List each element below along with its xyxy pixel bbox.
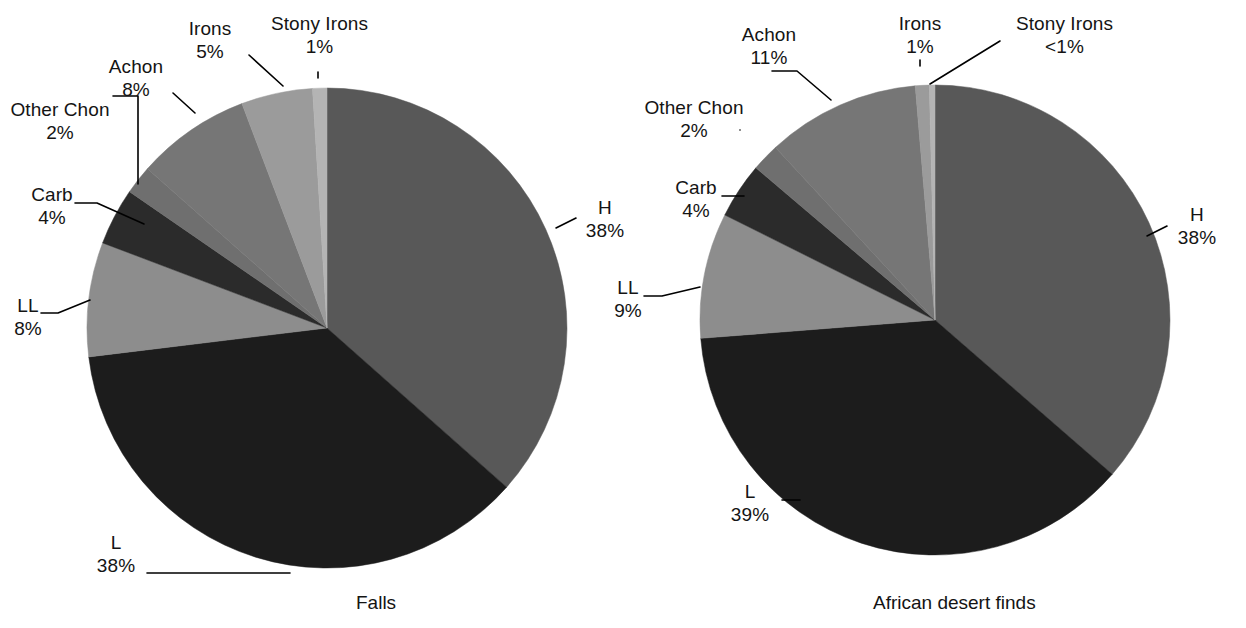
left-chart-caption: Falls bbox=[356, 592, 396, 614]
leader-line-left-h bbox=[556, 218, 576, 228]
left-label-irons: Irons 5% bbox=[175, 17, 245, 63]
right-label-achon-value: 11% bbox=[728, 46, 810, 69]
right-label-other-chon: Other Chon 2% bbox=[638, 96, 750, 142]
right-label-achon-name: Achon bbox=[728, 23, 810, 46]
left-label-achon: Achon 8% bbox=[100, 55, 172, 101]
left-label-h-name: H bbox=[578, 196, 632, 219]
leader-line-left-ll bbox=[41, 300, 90, 313]
left-label-stony-irons: Stony Irons 1% bbox=[257, 12, 382, 58]
leader-line-left-other-chon bbox=[113, 96, 138, 184]
right-label-l: L 39% bbox=[722, 480, 778, 526]
left-label-l-name: L bbox=[88, 531, 144, 554]
right-label-ll-value: 9% bbox=[608, 299, 648, 322]
leader-line-right-achon bbox=[772, 71, 831, 100]
right-label-other-chon-name: Other Chon bbox=[638, 96, 750, 119]
right-label-carb-name: Carb bbox=[668, 176, 724, 199]
left-label-irons-name: Irons bbox=[175, 17, 245, 40]
right-label-h-name: H bbox=[1170, 203, 1224, 226]
right-label-carb-value: 4% bbox=[668, 199, 724, 222]
right-label-h-value: 38% bbox=[1170, 226, 1224, 249]
left-label-stony-irons-name: Stony Irons bbox=[257, 12, 382, 35]
left-label-other-chon-name: Other Chon bbox=[4, 98, 116, 121]
right-label-achon: Achon 11% bbox=[728, 23, 810, 69]
right-label-irons-value: 1% bbox=[885, 35, 955, 58]
right-label-ll: LL 9% bbox=[608, 276, 648, 322]
left-label-carb-name: Carb bbox=[24, 183, 80, 206]
left-label-irons-value: 5% bbox=[175, 40, 245, 63]
left-label-h: H 38% bbox=[578, 196, 632, 242]
left-label-ll: LL 8% bbox=[8, 294, 48, 340]
leader-line-left-achon bbox=[173, 93, 195, 113]
right-label-stony-irons: Stony Irons <1% bbox=[1002, 12, 1127, 58]
right-label-l-name: L bbox=[722, 480, 778, 503]
right-label-irons-name: Irons bbox=[885, 12, 955, 35]
right-label-carb: Carb 4% bbox=[668, 176, 724, 222]
left-label-other-chon-value: 2% bbox=[4, 121, 116, 144]
right-label-l-value: 39% bbox=[722, 503, 778, 526]
left-label-l-value: 38% bbox=[88, 554, 144, 577]
right-label-ll-name: LL bbox=[608, 276, 648, 299]
right-label-other-chon-value: 2% bbox=[638, 119, 750, 142]
figure-canvas: Stony Irons 1% Irons 5% Achon 8% Other C… bbox=[0, 0, 1246, 628]
left-label-achon-name: Achon bbox=[100, 55, 172, 78]
right-label-h: H 38% bbox=[1170, 203, 1224, 249]
right-chart-caption: African desert finds bbox=[873, 592, 1036, 614]
right-label-irons: Irons 1% bbox=[885, 12, 955, 58]
left-label-other-chon: Other Chon 2% bbox=[4, 98, 116, 144]
leader-line-right-ll bbox=[644, 287, 700, 296]
left-label-stony-irons-value: 1% bbox=[257, 35, 382, 58]
left-label-l: L 38% bbox=[88, 531, 144, 577]
right-label-stony-irons-value: <1% bbox=[1002, 35, 1127, 58]
left-label-carb-value: 4% bbox=[24, 206, 80, 229]
left-label-h-value: 38% bbox=[578, 219, 632, 242]
pie-slices-group bbox=[87, 85, 1170, 568]
left-label-ll-name: LL bbox=[8, 294, 48, 317]
right-label-stony-irons-name: Stony Irons bbox=[1002, 12, 1127, 35]
left-label-carb: Carb 4% bbox=[24, 183, 80, 229]
left-label-ll-value: 8% bbox=[8, 317, 48, 340]
leader-line-left-irons bbox=[249, 55, 283, 86]
